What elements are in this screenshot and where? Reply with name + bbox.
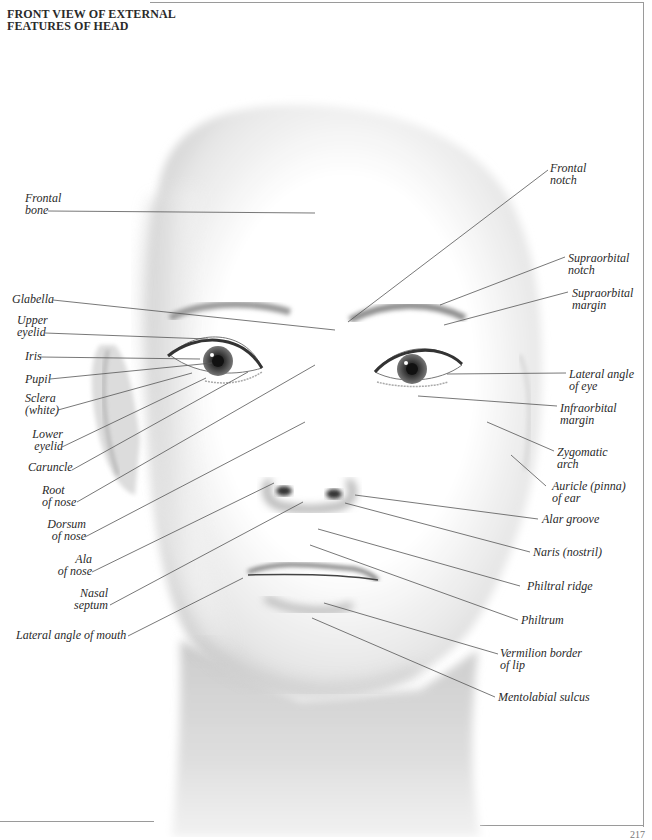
label-line: of eye xyxy=(569,380,634,392)
label-philtral-ridge: Philtral ridge xyxy=(527,580,593,592)
label-lateral-angle-of-eye: Lateral angle of eye xyxy=(569,368,634,392)
label-line: Alar groove xyxy=(542,513,599,525)
label-line: Glabella xyxy=(12,293,54,305)
label-ala-of-nose: Ala of nose xyxy=(50,553,92,577)
label-philtrum: Philtrum xyxy=(521,614,564,626)
label-zygomatic-arch: Zygomatic arch xyxy=(557,446,608,470)
label-line: eyelid xyxy=(25,440,63,452)
label-line: notch xyxy=(550,174,586,186)
label-line: of nose xyxy=(42,496,76,508)
label-line: Iris xyxy=(25,350,42,362)
label-line: of nose xyxy=(40,530,86,542)
label-line: of nose xyxy=(50,565,92,577)
label-line: margin xyxy=(560,414,617,426)
label-caruncle: Caruncle xyxy=(28,461,73,473)
label-line: of lip xyxy=(500,659,582,671)
label-line: (white) xyxy=(25,404,59,416)
page-number: 217 xyxy=(630,829,645,840)
left-ear xyxy=(92,345,140,495)
label-frontal-bone: Frontal bone xyxy=(25,192,61,216)
label-lower-eyelid: Lower eyelid xyxy=(25,428,63,452)
label-alar-groove: Alar groove xyxy=(542,513,599,525)
label-lateral-angle-of-mouth: Lateral angle of mouth xyxy=(16,629,126,641)
label-iris: Iris xyxy=(25,350,42,362)
label-line: Philtral ridge xyxy=(527,580,593,592)
label-frontal-notch: Frontal notch xyxy=(550,162,586,186)
label-line: septum xyxy=(62,599,108,611)
label-sclera: Sclera (white) xyxy=(25,392,59,416)
label-line: Pupil xyxy=(25,373,51,385)
label-line: arch xyxy=(557,458,608,470)
label-glabella: Glabella xyxy=(12,293,54,305)
label-auricle-of-ear: Auricle (pinna) of ear xyxy=(552,480,626,504)
label-vermilion-border: Vermilion border of lip xyxy=(500,647,582,671)
label-infraorbital-margin: Infraorbital margin xyxy=(560,402,617,426)
label-line: eyelid xyxy=(17,326,48,338)
label-line: Caruncle xyxy=(28,461,73,473)
label-line: Lateral angle of mouth xyxy=(16,629,126,641)
label-root-of-nose: Root of nose xyxy=(42,484,76,508)
label-supraorbital-notch: Supraorbital notch xyxy=(568,252,629,276)
label-line: of ear xyxy=(552,492,626,504)
label-supraorbital-margin: Supraorbital margin xyxy=(572,287,633,311)
label-pupil: Pupil xyxy=(25,373,51,385)
label-upper-eyelid: Upper eyelid xyxy=(17,314,48,338)
label-line: Mentolabial sulcus xyxy=(498,691,590,703)
label-nasal-septum: Nasal septum xyxy=(62,587,108,611)
label-line: bone xyxy=(25,204,61,216)
label-line: margin xyxy=(572,299,633,311)
label-naris: Naris (nostril) xyxy=(533,546,602,558)
label-line: Naris (nostril) xyxy=(533,546,602,558)
label-dorsum-of-nose: Dorsum of nose xyxy=(40,518,86,542)
label-line: notch xyxy=(568,264,629,276)
label-mentolabial-sulcus: Mentolabial sulcus xyxy=(498,691,590,703)
label-line: Philtrum xyxy=(521,614,564,626)
